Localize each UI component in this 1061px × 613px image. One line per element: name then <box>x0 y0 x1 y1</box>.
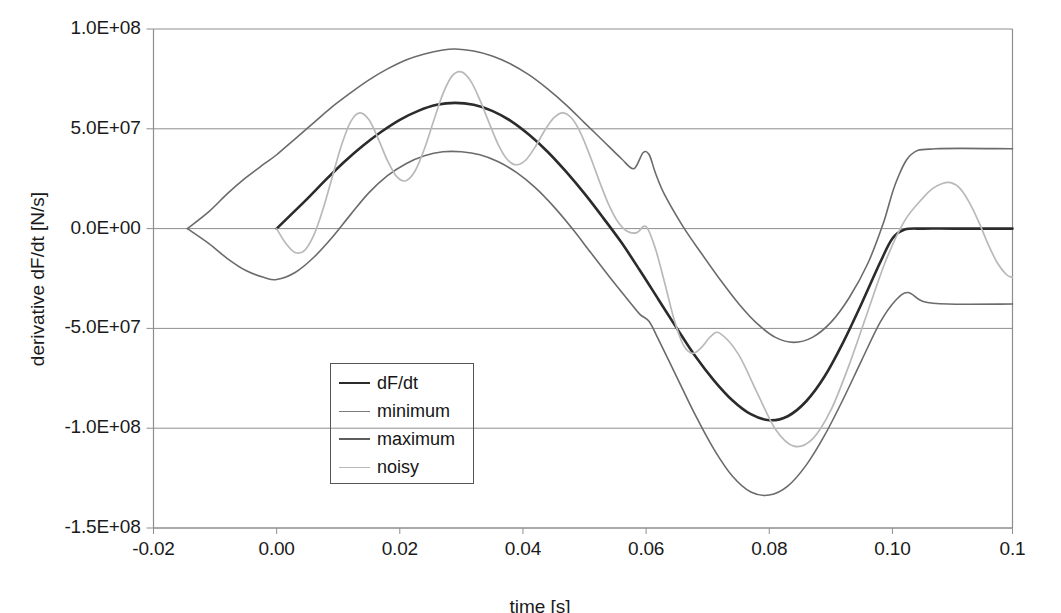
legend-label: dF/dt <box>377 374 418 392</box>
x-tick-label: 0.02 <box>360 538 440 560</box>
legend-label: noisy <box>377 458 419 476</box>
y-tick-label: 1.0E+08 <box>0 17 141 39</box>
plot-canvas <box>0 0 1061 613</box>
x-tick-label: 0.1 <box>973 538 1053 560</box>
x-tick-marks-group <box>147 29 1013 534</box>
x-tick-label: 0.06 <box>606 538 686 560</box>
legend-swatch-icon <box>339 411 370 412</box>
legend-swatch-icon <box>339 382 370 384</box>
legend-swatch-icon <box>339 467 370 468</box>
legend-item-noisy[interactable]: noisy <box>339 454 419 480</box>
chart-figure: 1.0E+085.0E+070.0E+00-5.0E+07-1.0E+08-1.… <box>0 0 1061 613</box>
legend-item-minimum[interactable]: minimum <box>339 398 450 424</box>
legend-label: minimum <box>377 402 450 420</box>
x-tick-label: 0.10 <box>852 538 932 560</box>
x-tick-label: 0.00 <box>237 538 317 560</box>
x-tick-label: 0.04 <box>483 538 563 560</box>
y-tick-label: 5.0E+07 <box>0 117 141 139</box>
legend-swatch-icon <box>339 438 370 440</box>
x-tick-label: -0.02 <box>114 538 194 560</box>
x-axis-title: time [s] <box>430 596 650 613</box>
y-tick-label: 0.0E+00 <box>0 217 141 239</box>
y-tick-label: -1.0E+08 <box>0 416 141 438</box>
legend-item-df-dt[interactable]: dF/dt <box>339 370 418 396</box>
legend-label: maximum <box>377 430 455 448</box>
x-tick-label: 0.08 <box>729 538 809 560</box>
y-tick-label: -1.5E+08 <box>0 516 141 538</box>
legend: dF/dtminimummaximumnoisy <box>330 363 474 484</box>
y-axis-title: derivative dF/dt [N/s] <box>27 149 49 409</box>
y-tick-label: -5.0E+07 <box>0 316 141 338</box>
legend-item-maximum[interactable]: maximum <box>339 426 455 452</box>
